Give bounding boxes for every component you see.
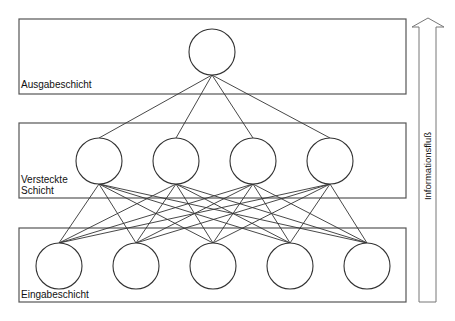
connection-line <box>290 184 330 243</box>
connection-line <box>212 75 330 138</box>
output-neuron <box>189 29 235 75</box>
hidden-layer-label-line1: Versteckte <box>21 174 68 185</box>
connection-line <box>59 184 330 243</box>
hidden-neuron <box>307 138 353 184</box>
connection-line <box>213 184 330 243</box>
connection-line <box>59 184 99 243</box>
input-neuron <box>344 243 390 289</box>
input-neuron <box>36 243 82 289</box>
input-neuron <box>113 243 159 289</box>
neural-network-diagram: Ausgabeschicht Versteckte Schicht Eingab… <box>0 0 455 321</box>
connection-line <box>59 184 253 243</box>
input-layer-label: Eingabeschicht <box>21 289 89 300</box>
input-neuron <box>267 243 313 289</box>
connection-line <box>176 75 212 138</box>
input-neuron <box>190 243 236 289</box>
hidden-layer-label-line2: Schicht <box>21 185 54 196</box>
connection-line <box>99 75 212 138</box>
hidden-neuron <box>230 138 276 184</box>
connection-line <box>330 184 367 243</box>
connection-line <box>136 184 330 243</box>
output-layer-label: Ausgabeschicht <box>21 79 92 90</box>
hidden-neuron <box>76 138 122 184</box>
information-flow-label: Informationsfluß <box>422 132 433 200</box>
hidden-neuron <box>153 138 199 184</box>
connection-line <box>59 184 176 243</box>
connection-line <box>212 75 253 138</box>
neurons <box>36 29 390 289</box>
